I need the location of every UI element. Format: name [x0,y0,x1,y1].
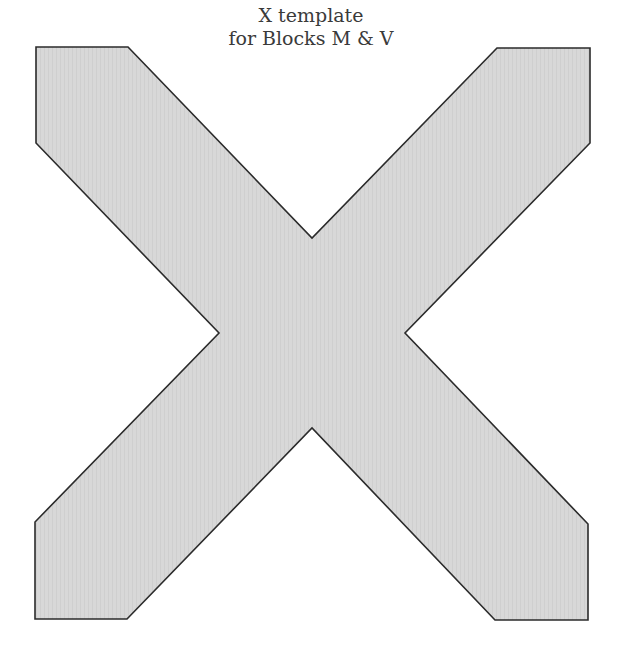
title-line-1: X template [0,4,622,27]
x-template-diagram [0,0,622,648]
template-canvas [0,0,622,648]
template-title: X template for Blocks M & V [0,4,622,50]
x-shape [35,47,590,620]
title-line-2: for Blocks M & V [0,27,622,50]
